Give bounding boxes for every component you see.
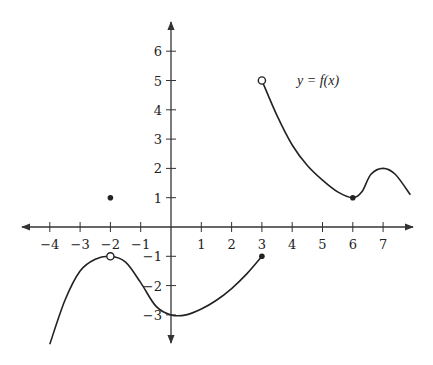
y-tick-label: −3 — [143, 308, 162, 323]
isolated-point — [108, 195, 114, 201]
y-tick-label: 1 — [154, 191, 162, 206]
y-tick-label: 2 — [154, 161, 162, 176]
closed-point — [350, 195, 356, 201]
closed-point — [259, 253, 265, 259]
y-tick-label: 3 — [154, 132, 162, 147]
open-point — [107, 253, 114, 260]
function-curves — [50, 81, 411, 345]
x-tick-label: 1 — [197, 237, 205, 252]
x-tick-label: 7 — [379, 237, 387, 252]
x-tick-label: 5 — [318, 237, 326, 252]
y-tick-label: 4 — [154, 103, 162, 118]
curve-piece-2 — [262, 81, 410, 198]
open-point — [258, 77, 265, 84]
x-tick-label: 3 — [258, 237, 266, 252]
x-tick-label: 6 — [349, 237, 357, 252]
y-tick-label: 5 — [154, 74, 162, 89]
x-tick-label: 4 — [288, 237, 296, 252]
function-graph: −4−3−2−11234567 −3−2−1123456 y = f(x) — [0, 0, 433, 365]
x-tick-label: −3 — [71, 237, 90, 252]
x-tick-label: 2 — [227, 237, 235, 252]
function-label: y = f(x) — [295, 73, 339, 89]
point-markers — [107, 77, 356, 260]
x-tick-label: −2 — [101, 237, 120, 252]
x-tick-label: −4 — [40, 237, 59, 252]
y-tick-label: 6 — [154, 44, 162, 59]
y-tick-label: −1 — [143, 249, 162, 264]
curve-piece-1 — [50, 256, 262, 344]
